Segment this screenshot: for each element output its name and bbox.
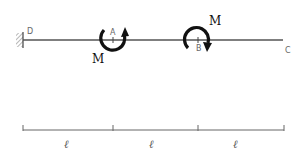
moment-label-b: M [209, 14, 221, 28]
dimension-label-da: ℓ [64, 138, 69, 151]
beam-diagram: D A B C M M ℓ ℓ ℓ [0, 0, 302, 158]
dimension-line [23, 125, 284, 131]
moment-label-a: M [92, 52, 104, 66]
fixed-wall-support [16, 32, 23, 48]
point-label-b: B [196, 44, 202, 53]
point-label-a: A [110, 28, 116, 37]
point-label-d: D [27, 27, 33, 36]
dimension-label-bc: ℓ [233, 138, 238, 151]
point-label-c: C [285, 46, 291, 55]
dimension-label-ab: ℓ [149, 138, 154, 151]
